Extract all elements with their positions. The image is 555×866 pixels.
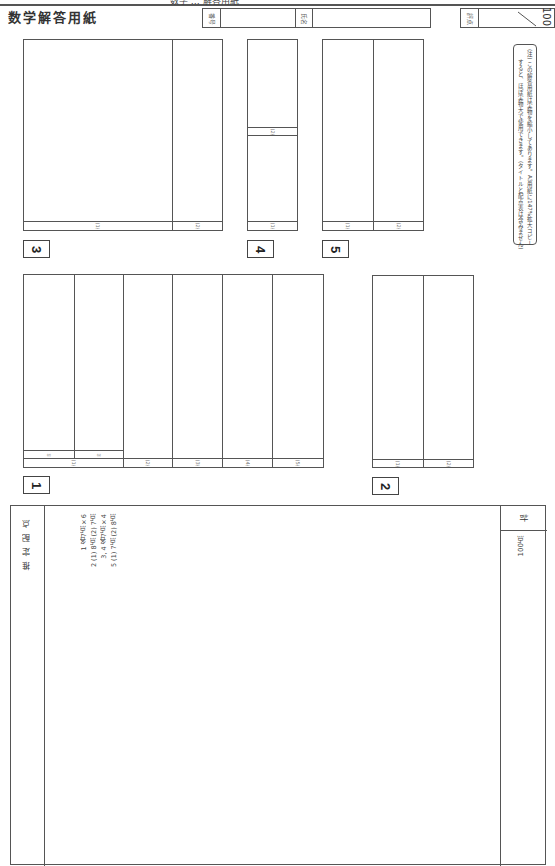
q1-sub1-part2-field[interactable] [75, 275, 123, 450]
total-value: 100点 [517, 536, 525, 556]
q4-sub1-label: (1) [270, 222, 276, 229]
number-label: 番号 [207, 12, 216, 24]
q5-sub2-field[interactable] [374, 40, 423, 221]
scoring-line-1: 1 各7点×6 [80, 514, 88, 550]
q2-sub1-field[interactable] [373, 276, 423, 459]
scoring-header: 推定配点 [22, 514, 31, 570]
name-label: 氏名 [300, 12, 309, 24]
note-line2: すると、ほぼ実物大で使用できます。(タイトルと配点表は含みません) [518, 59, 524, 249]
q4-sub2-label: (2) [270, 128, 276, 135]
page-title: 数学解答用紙 [8, 7, 98, 26]
scoring-table: 推定配点 1 各7点×6 2 (1) 8点 (2) 7点 3, 4 各7点×4 … [10, 505, 546, 865]
q1-sub5-label: (5) [295, 459, 301, 466]
number-field[interactable] [221, 9, 295, 27]
q5-sub1-field[interactable] [323, 40, 373, 221]
q1-sub2-field[interactable] [124, 275, 172, 458]
q2-sub2-label: (2) [446, 460, 452, 467]
q1-part2-label: ② [96, 452, 102, 456]
q3-number: 3 [23, 240, 50, 258]
scoring-line-2: 2 (1) 8点 (2) 7点 [90, 514, 98, 567]
q1-number: 1 [23, 476, 50, 494]
score-label: 評点 [465, 12, 474, 24]
q1-sub5-field[interactable] [273, 275, 323, 458]
total-label: 計 [519, 514, 530, 522]
q3-sub2-field[interactable] [173, 40, 222, 221]
q1-sub3-label: (3) [195, 459, 201, 466]
q3-sub1-label: (1) [95, 222, 101, 229]
q3-answer-box: (1) (2) [23, 39, 223, 231]
q1-sub4-label: (4) [245, 459, 251, 466]
q1-part1-label: ① [46, 452, 52, 456]
q5-sub2-label: (2) [396, 222, 402, 229]
q2-answer-box: (1) (2) [372, 275, 474, 468]
q3-sub1-field[interactable] [24, 40, 172, 221]
q4-sub1-field[interactable] [248, 136, 297, 221]
note-box: (注) この解答用紙は実物を縮小してあります。A3用紙に147%拡大コピー する… [513, 44, 537, 245]
top-rule [0, 4, 555, 6]
q2-sub1-label: (1) [395, 460, 401, 467]
q2-sub2-field[interactable] [424, 276, 473, 459]
q1-sub1-part1-field[interactable] [24, 275, 74, 450]
q1-answer-box: ① ② (1) (2) (3) (4) (5) [23, 274, 324, 468]
scoring-line-4: 5 (1) 7点 (2) 8点 [110, 514, 118, 567]
note-line1: この解答用紙は実物を縮小してあります。A3用紙に147%拡大コピー [527, 61, 533, 246]
q2-number: 2 [372, 477, 399, 495]
cut-header-text: 数学 … 解答用紙 [170, 0, 239, 7]
student-info-box: 番号 氏名 [202, 8, 431, 28]
q5-answer-box: (1) (2) [322, 39, 424, 231]
q3-sub2-label: (2) [195, 222, 201, 229]
scoring-line-3: 3, 4 各7点×4 [100, 514, 108, 559]
q5-sub1-label: (1) [345, 222, 351, 229]
q5-number: 5 [322, 240, 349, 258]
q4-answer-box: (2) (1) [247, 39, 298, 231]
q4-sub2-field[interactable] [248, 40, 297, 127]
score-box: 評点 100 [460, 8, 555, 28]
name-field[interactable] [313, 9, 430, 27]
q4-number: 4 [247, 240, 274, 258]
score-slash-icon [516, 11, 538, 27]
q1-sub3-field[interactable] [173, 275, 222, 458]
q1-sub1-label: (1) [71, 459, 77, 466]
q1-sub4-field[interactable] [223, 275, 272, 458]
note-mark: (注) [527, 49, 533, 59]
score-max: 100 [541, 7, 552, 26]
q1-sub2-label: (2) [145, 459, 151, 466]
